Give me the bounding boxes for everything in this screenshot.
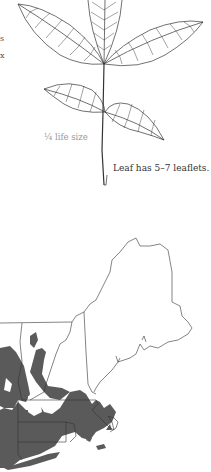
scale-caption: ¼ life size <box>44 132 88 142</box>
leaflet-count-caption: Leaf has 5–7 leaflets. <box>113 163 209 173</box>
range-map <box>0 232 211 472</box>
range-shading <box>0 332 116 470</box>
leaf-illustration <box>0 0 211 190</box>
